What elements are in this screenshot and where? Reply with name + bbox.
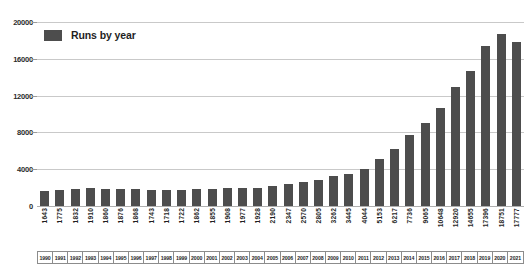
year-cell: 2007 bbox=[296, 252, 311, 263]
year-cell: 2010 bbox=[341, 252, 356, 263]
bar-slot bbox=[37, 22, 52, 206]
bar-slot bbox=[311, 22, 326, 206]
bar[interactable] bbox=[116, 189, 125, 206]
bar[interactable] bbox=[344, 174, 353, 206]
bar[interactable] bbox=[238, 188, 247, 206]
value-label-slot: 2570 bbox=[296, 207, 311, 250]
bar-value-label: 5153 bbox=[376, 208, 383, 223]
bar[interactable] bbox=[405, 135, 414, 206]
year-cell: 2020 bbox=[493, 252, 508, 263]
bar-value-label: 1832 bbox=[72, 208, 79, 223]
value-label-slot: 1643 bbox=[37, 207, 52, 250]
bar[interactable] bbox=[421, 123, 430, 206]
value-label-slot: 3445 bbox=[341, 207, 356, 250]
year-cell: 2021 bbox=[508, 252, 523, 263]
x-axis-year-table: 1990199119921993199419951996199719981999… bbox=[37, 251, 524, 264]
y-axis: 200001600012000800040000 bbox=[0, 0, 37, 277]
bar[interactable] bbox=[360, 169, 369, 206]
bar-value-label: 1977 bbox=[239, 208, 246, 223]
value-label-slot: 1860 bbox=[98, 207, 113, 250]
bar-slot bbox=[296, 22, 311, 206]
value-label-slot: 1876 bbox=[113, 207, 128, 250]
bar-chart: 200001600012000800040000 164317751832191… bbox=[0, 0, 529, 277]
bar-slot bbox=[204, 22, 219, 206]
year-cell: 2002 bbox=[220, 252, 235, 263]
bar-slot bbox=[326, 22, 341, 206]
bar[interactable] bbox=[101, 189, 110, 206]
bar-value-label: 1775 bbox=[56, 208, 63, 223]
bar-slot bbox=[448, 22, 463, 206]
value-label-slot: 2805 bbox=[311, 207, 326, 250]
value-label-slot: 2347 bbox=[281, 207, 296, 250]
bar[interactable] bbox=[131, 189, 140, 206]
value-label-slot: 1928 bbox=[250, 207, 265, 250]
value-label-slot: 1908 bbox=[220, 207, 235, 250]
legend-label: Runs by year bbox=[71, 29, 136, 41]
year-cell: 2014 bbox=[402, 252, 417, 263]
bar-value-label: 1908 bbox=[224, 208, 231, 223]
year-cell: 1996 bbox=[129, 252, 144, 263]
bar[interactable] bbox=[177, 190, 186, 206]
bar-slot bbox=[113, 22, 128, 206]
bar[interactable] bbox=[162, 190, 171, 206]
bar-value-label: 1718 bbox=[163, 208, 170, 223]
bar[interactable] bbox=[314, 180, 323, 206]
year-cell: 1991 bbox=[53, 252, 68, 263]
year-cell: 2017 bbox=[447, 252, 462, 263]
value-label-slot: 7736 bbox=[402, 207, 417, 250]
bar[interactable] bbox=[436, 108, 445, 206]
bar-value-label: 1855 bbox=[209, 208, 216, 223]
bar-slot bbox=[387, 22, 402, 206]
bar-slot bbox=[83, 22, 98, 206]
value-label-slot: 6217 bbox=[387, 207, 402, 250]
bar-slot bbox=[357, 22, 372, 206]
bar-value-label: 1868 bbox=[132, 208, 139, 223]
bar[interactable] bbox=[299, 182, 308, 206]
year-cell: 2000 bbox=[190, 252, 205, 263]
bar[interactable] bbox=[284, 184, 293, 206]
bar[interactable] bbox=[55, 190, 64, 206]
value-label-slot: 1855 bbox=[204, 207, 219, 250]
bar[interactable] bbox=[329, 176, 338, 206]
value-label-slot: 10648 bbox=[433, 207, 448, 250]
bar[interactable] bbox=[253, 188, 262, 206]
bar[interactable] bbox=[268, 186, 277, 206]
bar-slot bbox=[341, 22, 356, 206]
bar-slot bbox=[509, 22, 524, 206]
bar[interactable] bbox=[451, 87, 460, 206]
bar[interactable] bbox=[466, 71, 475, 206]
bar[interactable] bbox=[223, 188, 232, 206]
bar[interactable] bbox=[512, 42, 521, 206]
bar[interactable] bbox=[86, 188, 95, 206]
y-axis-label: 16000 bbox=[13, 54, 33, 63]
bar[interactable] bbox=[497, 34, 506, 207]
value-label-slot: 1832 bbox=[67, 207, 82, 250]
bar-value-label: 2570 bbox=[300, 208, 307, 223]
bar[interactable] bbox=[208, 189, 217, 206]
bar-slot bbox=[478, 22, 493, 206]
bar[interactable] bbox=[481, 46, 490, 206]
bar[interactable] bbox=[192, 189, 201, 206]
bar[interactable] bbox=[390, 149, 399, 206]
bar-slot bbox=[281, 22, 296, 206]
bar-slot bbox=[174, 22, 189, 206]
bar-slot bbox=[433, 22, 448, 206]
bar-value-label: 9065 bbox=[422, 208, 429, 223]
value-label-slot: 3262 bbox=[326, 207, 341, 250]
y-axis-label: 12000 bbox=[13, 91, 33, 100]
bar-value-label: 1862 bbox=[193, 208, 200, 223]
value-label-slot: 18751 bbox=[494, 207, 509, 250]
bar-slot bbox=[494, 22, 509, 206]
bar[interactable] bbox=[375, 159, 384, 206]
bar-slot bbox=[250, 22, 265, 206]
bar[interactable] bbox=[40, 191, 49, 206]
y-axis-label: 20000 bbox=[13, 18, 33, 27]
bar-value-label: 18751 bbox=[498, 208, 505, 227]
year-cell: 2005 bbox=[265, 252, 280, 263]
bar[interactable] bbox=[71, 189, 80, 206]
value-label-slot: 1743 bbox=[144, 207, 159, 250]
bar[interactable] bbox=[147, 190, 156, 206]
value-label-slot: 1977 bbox=[235, 207, 250, 250]
bar-value-label: 2805 bbox=[315, 208, 322, 223]
value-label-slot: 4044 bbox=[357, 207, 372, 250]
